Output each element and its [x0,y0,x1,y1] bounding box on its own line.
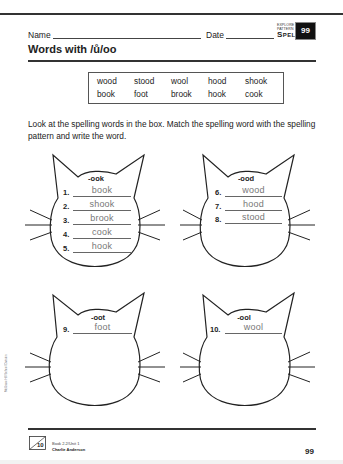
answer-number: 6. [215,188,221,197]
date-field[interactable] [226,38,274,39]
answer-number: 10. [210,325,220,334]
pattern-label: -ook [76,174,116,183]
lesson-number: 10 [37,442,44,448]
answer-number: 5. [63,244,69,253]
cat-ood: -ood 6. wood 7. hood 8. stood [180,150,330,275]
answer-number: 7. [215,202,221,211]
answer-word: wool [225,322,282,332]
answer-word: cook [73,227,131,237]
answer-line[interactable] [73,252,131,253]
answer-line[interactable] [73,238,131,239]
page-edge [0,460,343,464]
cat-ool: -ool 10. wool [180,285,330,410]
spelling-word: stood [134,76,171,86]
pattern-label: -ool [224,313,264,322]
answer-line[interactable] [73,224,131,225]
answer-line[interactable] [73,333,132,334]
top-rule [0,13,343,15]
worksheet-header: Name Date EXPLORE THE PATTERN Spelling [28,22,315,38]
page-title: Words with /ů/oo [28,43,116,55]
answer-word: shook [73,199,131,209]
bottom-rule [28,428,316,430]
answer-line[interactable] [225,223,282,224]
author-name: Charlie Anderson [52,447,85,452]
spelling-word: brook [171,89,208,99]
instructions: Look at the spelling words in the box. M… [28,118,323,142]
answer-number: 3. [63,216,69,225]
answer-word: brook [73,213,131,223]
answer-line[interactable] [225,196,282,197]
answer-line[interactable] [225,333,282,334]
cat-oot: -oot 9. foot [20,285,170,410]
answer-number: 2. [63,202,69,211]
title-rule [28,60,316,62]
lesson-number-icon: 10 [29,436,46,450]
page-badge: 99 [295,22,316,40]
name-field[interactable] [53,38,201,39]
answer-number: 4. [63,230,69,239]
answer-line[interactable] [225,210,282,211]
name-label: Name [28,30,51,40]
answer-line[interactable] [73,196,131,197]
word-row: wood stood wool hood shook [97,76,282,86]
answer-number: 8. [215,215,221,224]
pattern-label: -oot [78,313,118,322]
answer-word: hood [225,199,282,209]
book-unit: Book 2.2/Unit 1 [52,441,79,446]
answer-word: wood [225,185,282,195]
pattern-label: -ood [226,174,266,183]
answer-word: hook [73,241,131,251]
date-label: Date [206,30,224,40]
word-row: book foot brook hook cook [97,89,282,99]
answer-number: 1. [63,188,69,197]
spelling-word: cook [245,89,282,99]
publisher-credit: McGraw-Hill School Division [4,322,12,392]
answer-number: 9. [63,325,69,334]
answer-word: foot [73,322,132,332]
cat-outline-icon [20,285,170,410]
answer-line[interactable] [73,210,131,211]
spelling-word: hook [208,89,245,99]
answer-word: book [73,185,131,195]
spelling-word: foot [134,89,171,99]
spelling-word-box: wood stood wool hood shook book foot bro… [88,72,284,104]
cat-ook: -ook 1. book 2. shook 3. brook 4. cook 5… [20,150,170,275]
spelling-word: wood [97,76,134,86]
spelling-word: wool [171,76,208,86]
answer-word: stood [225,212,282,222]
spelling-word: shook [245,76,282,86]
page-number: 99 [305,447,314,456]
spelling-word: hood [208,76,245,86]
spelling-word: book [97,89,134,99]
cat-outline-icon [180,285,330,410]
